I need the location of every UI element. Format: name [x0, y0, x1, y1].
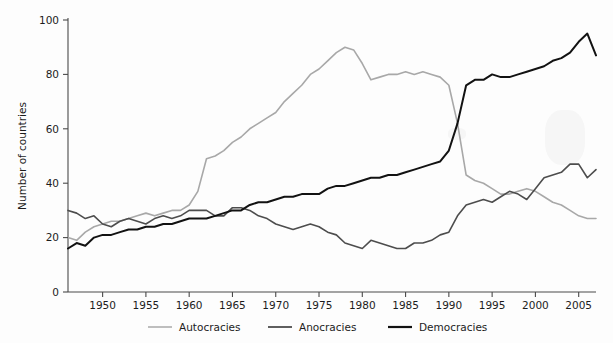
x-tick-label: 1975: [306, 299, 333, 311]
y-tick-label: 0: [52, 286, 59, 298]
x-tick-label: 1990: [435, 299, 462, 311]
chart-legend: AutocraciesAnocraciesDemocracies: [148, 321, 487, 333]
series-line-democracies: [68, 34, 596, 249]
y-tick-label: 20: [46, 231, 59, 243]
legend-label-democracies: Democracies: [419, 321, 487, 333]
legend-label-anocracies: Anocracies: [299, 321, 356, 333]
x-tick-label: 1970: [262, 299, 289, 311]
x-tick-label: 1965: [219, 299, 246, 311]
y-tick-label: 80: [46, 68, 59, 80]
data-series: [68, 34, 596, 249]
y-tick-label: 40: [46, 177, 59, 189]
y-axis-label-text: Number of countries: [16, 102, 28, 210]
y-tick-label: 60: [46, 123, 59, 135]
chart-figure: 1950195519601965197019751980198519901995…: [0, 0, 613, 343]
x-tick-label: 2000: [522, 299, 549, 311]
x-tick-label: 2005: [565, 299, 592, 311]
x-tick-label: 1995: [479, 299, 506, 311]
series-line-autocracies: [68, 47, 596, 240]
series-line-anocracies: [68, 164, 596, 248]
x-tick-label: 1980: [349, 299, 376, 311]
x-axis-ticks: 1950195519601965197019751980198519901995…: [89, 292, 592, 311]
y-tick-label: 100: [39, 14, 59, 26]
x-tick-label: 1955: [133, 299, 160, 311]
legend-label-autocracies: Autocracies: [179, 321, 241, 333]
line-chart-svg: 1950195519601965197019751980198519901995…: [0, 0, 613, 343]
x-tick-label: 1985: [392, 299, 419, 311]
x-tick-label: 1960: [176, 299, 203, 311]
axes: [68, 18, 596, 292]
x-tick-label: 1950: [89, 299, 116, 311]
y-axis-label: Number of countries: [16, 102, 28, 210]
y-axis-ticks: 020406080100: [39, 14, 68, 298]
